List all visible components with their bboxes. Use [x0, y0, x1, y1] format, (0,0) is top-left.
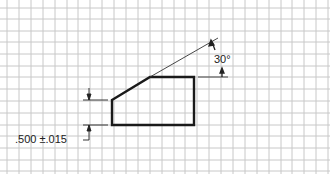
drawing-svg [0, 0, 330, 174]
grid-drawing: 30° .500 ±.015 [0, 0, 330, 174]
slant-extension-line [150, 38, 218, 77]
height-tolerance-label: .500 ±.015 [15, 133, 67, 145]
angle-label: 30° [214, 53, 231, 65]
height-dimension [83, 88, 108, 140]
grid-lines [0, 0, 330, 174]
